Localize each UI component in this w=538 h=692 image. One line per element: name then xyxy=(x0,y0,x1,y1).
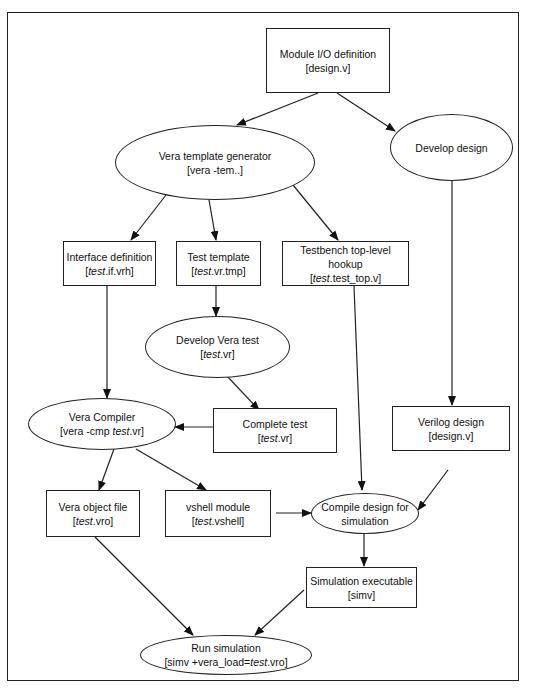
node-title: Vera object file xyxy=(59,500,128,514)
node-title-line2: simulation xyxy=(341,514,388,528)
edge-tbhookup-compiledesign xyxy=(354,286,362,490)
edge-moduleio-developdesign xyxy=(337,93,395,131)
node-title: Module I/O definition xyxy=(280,47,376,61)
node-interface-definition[interactable]: Interface definition [test.if.vrh] xyxy=(63,241,156,286)
node-title: Simulation executable xyxy=(310,574,413,588)
edge-simexec-runsim xyxy=(255,590,304,635)
node-vera-compiler[interactable]: Vera Compiler [vera -cmp test.vr] xyxy=(28,398,176,450)
edge-moduleio-templategen xyxy=(237,93,318,125)
edge-templategen-interface xyxy=(131,195,166,240)
node-title: Interface definition xyxy=(67,250,153,264)
node-title: Complete test xyxy=(243,417,308,431)
node-subtitle: [test.if.vrh] xyxy=(85,264,133,278)
edge-templategen-tbhookup xyxy=(293,185,338,240)
node-title: Compile design for xyxy=(321,500,409,514)
node-vera-template-generator[interactable]: Vera template generator [vera -tem..] xyxy=(115,125,315,200)
node-title: Verilog design xyxy=(418,415,484,429)
node-subtitle: [test.vr.tmp] xyxy=(191,264,245,278)
node-complete-test[interactable]: Complete test [test.vr] xyxy=(213,408,337,453)
node-simulation-executable[interactable]: Simulation executable [simv] xyxy=(306,567,417,608)
node-title: vshell module xyxy=(186,500,250,514)
node-verilog-design[interactable]: Verilog design [design.v] xyxy=(392,406,510,451)
node-subtitle: [test.test_top.v] xyxy=(310,271,381,285)
node-subtitle: [simv +vera_load=test.vro] xyxy=(164,655,287,669)
node-subtitle: [design.v] xyxy=(429,429,474,443)
edge-veracompiler-veraobject xyxy=(99,449,114,490)
node-title: Testbench top-level hookup xyxy=(283,243,408,271)
node-test-template[interactable]: Test template [test.vr.tmp] xyxy=(176,241,261,286)
edge-veracompiler-vshell xyxy=(136,449,206,490)
node-title: Vera template generator xyxy=(159,149,272,163)
node-develop-vera-test[interactable]: Develop Vera test [test.vr] xyxy=(145,316,290,378)
edge-veraobject-runsim xyxy=(95,537,193,635)
node-vera-object-file[interactable]: Vera object file [test.vro] xyxy=(46,490,140,537)
node-subtitle: [simv] xyxy=(348,588,375,602)
node-compile-design[interactable]: Compile design for simulation xyxy=(311,493,419,534)
node-title: Vera Compiler xyxy=(69,410,136,424)
node-title: Test template xyxy=(187,250,249,264)
node-subtitle: [test.vshell] xyxy=(192,514,245,528)
node-run-simulation[interactable]: Run simulation [simv +vera_load=test.vro… xyxy=(140,635,312,675)
node-develop-design[interactable]: Develop design xyxy=(390,114,513,181)
node-testbench-hookup[interactable]: Testbench top-level hookup [test.test_to… xyxy=(282,241,409,286)
edge-developveratest-completetest xyxy=(227,376,259,410)
node-module-io-definition[interactable]: Module I/O definition [design.v] xyxy=(266,28,390,93)
node-title: Develop design xyxy=(415,141,487,155)
node-subtitle: [design.v] xyxy=(306,61,351,75)
node-subtitle: [vera -tem..] xyxy=(187,163,243,177)
node-title: Run simulation xyxy=(191,641,260,655)
node-vshell-module[interactable]: vshell module [test.vshell] xyxy=(165,490,271,537)
node-title: Develop Vera test xyxy=(176,333,259,347)
node-subtitle: [vera -cmp test.vr] xyxy=(60,424,144,438)
edge-verilogdesign-compiledesign xyxy=(418,470,448,510)
node-subtitle: [test.vro] xyxy=(73,514,113,528)
node-subtitle: [test.vr] xyxy=(258,431,292,445)
edge-templategen-testtemplate xyxy=(209,200,216,240)
node-subtitle: [test.vr] xyxy=(200,347,234,361)
